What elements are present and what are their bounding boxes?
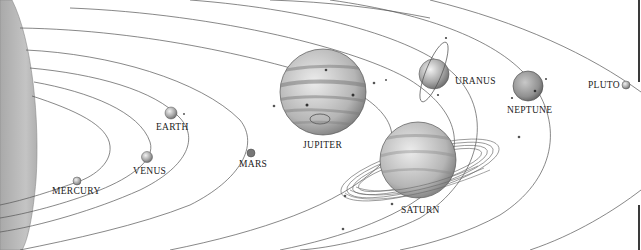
- planet-mars: [247, 149, 255, 157]
- moon-jupiter-3: [385, 79, 387, 81]
- planet-saturn: [335, 122, 505, 214]
- moon-saturn-1: [344, 195, 347, 198]
- label-earth: EARTH: [156, 123, 189, 133]
- solar-system-diagram: MERCURY VENUS EARTH MARS JUPITER SATURN …: [0, 0, 641, 250]
- frame-edge-top: [638, 0, 640, 82]
- moon-uranus-2: [437, 94, 439, 96]
- planet-neptune: [513, 71, 543, 101]
- planet-mercury: [73, 177, 81, 185]
- label-mercury: MERCURY: [52, 187, 101, 197]
- planet-jupiter: [278, 49, 368, 135]
- moon-uranus-1: [445, 37, 447, 39]
- moon-neptune-1: [545, 78, 547, 80]
- neptune-spot: [534, 90, 537, 93]
- moon-neptune-3: [518, 136, 521, 139]
- label-saturn: SATURN: [401, 206, 440, 216]
- planet-uranus: [415, 39, 454, 104]
- label-uranus: URANUS: [455, 77, 496, 87]
- label-pluto: PLUTO: [588, 81, 620, 91]
- moon-neptune-2: [511, 97, 513, 99]
- moon-jupiter-2: [373, 82, 376, 85]
- label-neptune: NEPTUNE: [507, 106, 552, 116]
- planet-venus: [142, 152, 153, 163]
- label-mars: MARS: [239, 160, 267, 170]
- moon-saturn-2: [391, 203, 394, 206]
- moon-saturn-3: [342, 228, 345, 231]
- label-jupiter: JUPITER: [303, 141, 342, 151]
- orbit-neptune: [330, 0, 550, 250]
- orbit-pluto-lower: [530, 190, 641, 250]
- planet-earth: [165, 107, 177, 119]
- label-venus: VENUS: [133, 167, 166, 177]
- planet-pluto: [622, 81, 630, 89]
- frame-edge-bottom: [638, 205, 640, 250]
- diagram-canvas: [0, 0, 641, 250]
- moon-earth: [183, 113, 185, 115]
- sun-shape: [0, 0, 37, 250]
- moon-jupiter-1: [273, 105, 276, 108]
